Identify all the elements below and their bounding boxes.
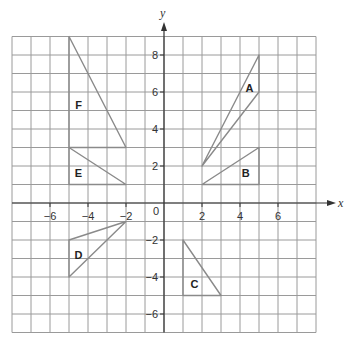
y-axis-label: y [159,6,166,20]
x-tick-label: −4 [82,210,95,222]
x-axis-label: x [337,196,344,210]
y-tick-label: −6 [145,308,158,320]
triangle-d: D [69,222,126,278]
triangle-label: A [246,82,254,94]
triangle-label: D [75,249,83,261]
x-tick-label: −2 [120,210,133,222]
coordinate-grid-diagram: xy −6−4−22468642−2−4−60 ABCDEF [0,0,348,339]
y-tick-label: 6 [152,86,158,98]
x-tick-label: 4 [237,210,243,222]
y-axis-arrow-icon [161,22,167,31]
x-tick-label: 2 [199,210,205,222]
triangle-label: F [75,99,82,111]
x-axis-arrow-icon [327,200,336,206]
y-tick-label: 8 [152,49,158,61]
x-tick-label: 6 [275,210,281,222]
y-tick-label: 2 [152,160,158,172]
triangle-label: C [190,278,198,290]
triangle-label: E [75,167,82,179]
y-tick-label: 4 [152,123,158,135]
y-tick-label: −2 [145,234,158,246]
y-tick-label: −4 [145,271,158,283]
triangle-label: B [242,167,250,179]
x-tick-label: −6 [44,210,57,222]
origin-label: 0 [153,205,159,217]
